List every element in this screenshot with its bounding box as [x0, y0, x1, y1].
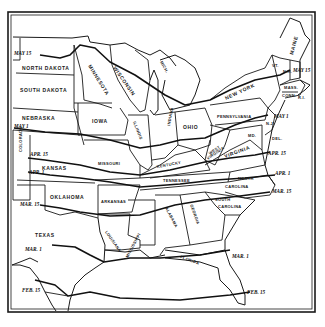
isoline-label-apr1-west: APR. 1 — [28, 169, 45, 175]
label-vermont: VT. — [272, 63, 279, 68]
label-north-dakota: NORTH DAKOTA — [22, 65, 69, 71]
label-arkansas: ARKANSAS — [101, 199, 126, 204]
isoline-label-may15-east: MAY 15 — [292, 67, 311, 73]
label-indiana: INDIANA — [166, 107, 174, 126]
label-michigan: MICH. — [159, 60, 170, 74]
label-pennsylvania: PENNSYLVANIA — [217, 114, 251, 119]
isoline-label-mar15-west: MAR. 15 — [19, 201, 40, 207]
label-south-carolina-line2: CAROLINA — [218, 204, 242, 209]
label-illinois: ILLINOIS — [132, 121, 144, 141]
isoline-label-may1-west: MAY 1 — [13, 123, 29, 129]
label-north-carolina-line1: NORTH — [238, 176, 254, 181]
label-north-carolina-line2: CAROLINA — [225, 184, 249, 189]
label-south-dakota: SOUTH DAKOTA — [20, 87, 67, 93]
label-georgia: GEORGIA — [189, 204, 201, 225]
label-oklahoma: OKLAHOMA — [50, 194, 84, 200]
label-connecticut: CONN. — [282, 93, 296, 98]
label-missouri: MISSOURI — [98, 161, 120, 166]
label-massachusetts: MASS. — [284, 85, 298, 90]
label-new-hampshire: N.H. — [283, 69, 292, 74]
label-mississippi: MISSISSIPPI — [124, 232, 141, 258]
label-colorado: COLORADO — [18, 126, 23, 152]
isoline-label-mar1-west: MAR. 1 — [24, 246, 42, 252]
isoline-label-mar15-east: MAR. 15 — [271, 188, 292, 194]
isoline-label-feb15-east: FEB. 15 — [247, 289, 266, 295]
label-ohio: OHIO — [183, 124, 198, 130]
label-texas: TEXAS — [35, 232, 55, 238]
map-figure: NORTH DAKOTA SOUTH DAKOTA NEBRASKA COLOR… — [0, 0, 325, 327]
label-rhode-island: R.I. — [298, 95, 305, 100]
label-louisiana: LOUISIANA — [104, 230, 122, 253]
label-new-jersey: N.J. — [266, 121, 275, 126]
label-maryland: MD. — [248, 133, 256, 138]
isoline-label-may15-west: MAY 15 — [13, 50, 32, 56]
isoline-label-mar1-east: MAR. 1 — [231, 253, 249, 259]
map-canvas: NORTH DAKOTA SOUTH DAKOTA NEBRASKA COLOR… — [0, 0, 325, 327]
isoline-label-apr15-west: APR. 15 — [29, 151, 48, 157]
isoline-label-apr15-east: APR. 15 — [267, 150, 286, 156]
label-maine: MAINE — [288, 35, 299, 55]
label-nebraska: NEBRASKA — [22, 115, 55, 121]
isoline-label-apr1-east: APR. 1 — [274, 170, 291, 176]
label-iowa: IOWA — [92, 118, 108, 124]
isoline-label-feb15-west: FEB. 15 — [22, 287, 41, 293]
label-delaware: DEL. — [272, 136, 282, 141]
isoline-label-may1-east: MAY 1 — [273, 113, 289, 119]
label-minnesota: MINNESOTA — [87, 63, 111, 96]
label-alabama: ALABAMA — [164, 206, 179, 228]
label-south-carolina-line1: SOUTH — [215, 197, 231, 202]
label-kansas: KANSAS — [42, 165, 67, 171]
label-tennessee: TENNESSEE — [163, 178, 190, 183]
